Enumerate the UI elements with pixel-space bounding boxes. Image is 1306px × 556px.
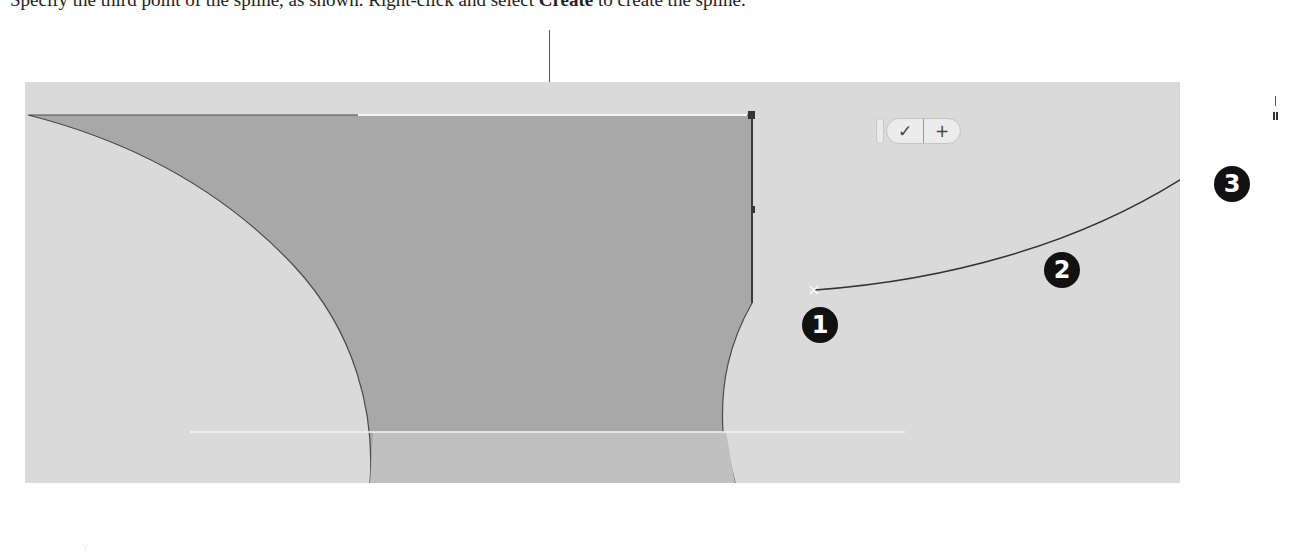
solid-profile-face bbox=[28, 115, 752, 483]
callout-2: 2 bbox=[1044, 252, 1080, 288]
lower-band bbox=[370, 432, 735, 483]
page-margin-marker bbox=[1273, 96, 1279, 124]
caption-text-bold: Create bbox=[539, 0, 594, 10]
sketch-geometry bbox=[25, 82, 1180, 483]
instruction-caption: Specify the third point of the spline, a… bbox=[0, 0, 1306, 11]
checkmark-icon: ✓ bbox=[898, 121, 912, 141]
ok-button[interactable]: ✓ bbox=[887, 119, 923, 143]
callout-3: 3 bbox=[1214, 166, 1250, 202]
toolbar-grip-handle[interactable] bbox=[876, 118, 884, 144]
caption-text-after: to create the spline. bbox=[593, 0, 745, 10]
graphics-viewport[interactable]: Y bbox=[25, 82, 1180, 483]
toolbar-button-group: ✓ + bbox=[886, 118, 961, 144]
plus-icon: + bbox=[935, 121, 949, 141]
add-button[interactable]: + bbox=[923, 119, 960, 143]
callout-1: 1 bbox=[802, 307, 838, 343]
view-triad-icon: Y bbox=[81, 540, 90, 556]
caption-text-before: Specify the third point of the spline, a… bbox=[10, 0, 539, 10]
spline-curve bbox=[815, 154, 1180, 290]
sketch-toolbar: ✓ + bbox=[876, 117, 961, 145]
